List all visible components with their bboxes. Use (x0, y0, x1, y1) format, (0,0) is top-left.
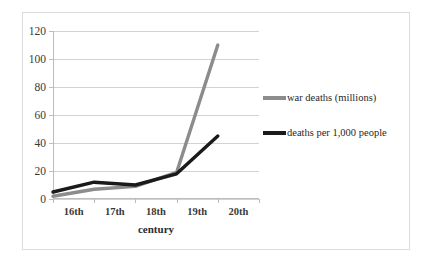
x-axis-tick (218, 199, 219, 203)
legend-swatch-icon (263, 96, 286, 100)
chart-figure: 020406080100120 16th17th18th19th20th cen… (22, 12, 410, 250)
legend-swatch-icon (263, 131, 286, 135)
x-axis-label: 17th (105, 206, 125, 217)
chart-legend: war deaths (millions)deaths per 1,000 pe… (263, 91, 409, 161)
legend-label: deaths per 1,000 people (287, 126, 387, 139)
y-axis-label: 120 (29, 25, 46, 37)
legend-entry[interactable]: deaths per 1,000 people (263, 126, 409, 139)
x-axis-tick (53, 199, 54, 203)
x-axis-label: 16th (64, 206, 84, 217)
x-axis-tick (259, 199, 260, 203)
series-line (53, 45, 218, 196)
x-axis-tick (135, 199, 136, 203)
x-axis-label: 18th (146, 206, 166, 217)
y-axis-label: 60 (35, 109, 47, 121)
y-axis-label: 40 (35, 137, 47, 149)
y-axis-label: 80 (35, 81, 47, 93)
y-axis-label: 0 (40, 193, 46, 205)
x-axis-title: century (138, 223, 174, 235)
legend-entry[interactable]: war deaths (millions) (263, 91, 409, 104)
x-axis-label: 20th (228, 206, 248, 217)
x-axis-tick (94, 199, 95, 203)
x-axis-label: 19th (187, 206, 207, 217)
y-axis-label: 100 (29, 53, 46, 65)
series-lines (53, 31, 259, 199)
x-axis-tick (177, 199, 178, 203)
series-line (53, 136, 218, 192)
gridline (53, 199, 259, 200)
plot-area: 020406080100120 16th17th18th19th20th cen… (53, 31, 259, 199)
legend-label: war deaths (millions) (287, 91, 376, 104)
y-axis-label: 20 (35, 165, 47, 177)
